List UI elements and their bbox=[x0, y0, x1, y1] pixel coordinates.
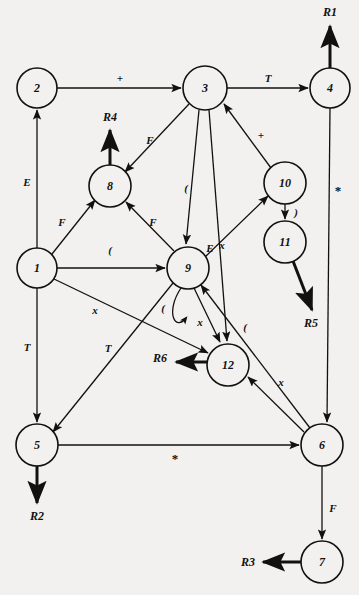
reduce-label-r3: R3 bbox=[240, 555, 255, 569]
edge-label: x bbox=[218, 239, 225, 251]
edge-label: + bbox=[117, 72, 123, 84]
reduce-label-r2: R2 bbox=[29, 509, 44, 523]
edge-label: ( bbox=[184, 182, 189, 195]
edge-4-6 bbox=[327, 108, 330, 422]
edge-label: T bbox=[265, 72, 273, 84]
edge-11-R5 bbox=[293, 261, 312, 310]
edge-label: F bbox=[328, 502, 337, 514]
node-label: 6 bbox=[319, 438, 325, 452]
edge-1-12 bbox=[54, 279, 208, 353]
edge-3-8 bbox=[125, 104, 189, 172]
node-label: 7 bbox=[319, 555, 326, 569]
graph-node-8[interactable]: 8 bbox=[89, 165, 131, 207]
edge-label: * bbox=[335, 183, 342, 198]
edge-label: E bbox=[205, 242, 213, 254]
graph-node-4[interactable]: 4 bbox=[310, 68, 350, 108]
node-label: 4 bbox=[326, 81, 333, 95]
node-label: 9 bbox=[185, 261, 191, 275]
graph-node-2[interactable]: 2 bbox=[17, 68, 57, 108]
edge-9-9-self bbox=[173, 288, 186, 323]
edge-label: x bbox=[196, 316, 203, 328]
node-label: 5 bbox=[34, 438, 40, 452]
edge-label: T bbox=[24, 341, 32, 353]
reduce-label-r4: R4 bbox=[102, 110, 117, 124]
node-label: 11 bbox=[279, 235, 290, 249]
graph-node-11[interactable]: 11 bbox=[264, 221, 306, 263]
edge-3-9 bbox=[186, 110, 199, 244]
graph-node-12[interactable]: 12 bbox=[207, 344, 249, 386]
graph-node-7[interactable]: 7 bbox=[301, 541, 343, 583]
edge-9-12 bbox=[194, 288, 220, 342]
edge-label: ( bbox=[108, 244, 113, 257]
edge-label: F bbox=[57, 216, 66, 228]
node-label: 2 bbox=[33, 81, 40, 95]
node-label: 3 bbox=[201, 81, 208, 95]
edge-label: E bbox=[22, 176, 30, 188]
node-label: 1 bbox=[34, 261, 40, 275]
edge-label: x bbox=[277, 376, 284, 388]
node-label: 12 bbox=[222, 358, 234, 372]
reduce-label-r1: R1 bbox=[322, 5, 337, 19]
reduce-label-r5: R5 bbox=[303, 316, 318, 330]
node-label: 10 bbox=[279, 176, 291, 190]
edge-label: ) bbox=[293, 206, 298, 219]
edge-label: F bbox=[145, 134, 154, 146]
graph-node-6[interactable]: 6 bbox=[301, 424, 343, 466]
diagram-canvas: + T E F ( x T F ( E F x ( T + ) * * x ( … bbox=[0, 0, 359, 595]
graph-node-1[interactable]: 1 bbox=[17, 248, 57, 288]
graph-node-5[interactable]: 5 bbox=[16, 424, 58, 466]
edge-label: ( bbox=[243, 321, 248, 334]
node-label: 8 bbox=[107, 179, 113, 193]
edge-6-12 bbox=[248, 377, 304, 432]
edge-label: ( bbox=[161, 302, 166, 315]
edge-label: F bbox=[148, 216, 157, 228]
graph-node-9[interactable]: 9 bbox=[167, 247, 209, 289]
graph-node-3[interactable]: 3 bbox=[183, 66, 227, 110]
edge-9-10 bbox=[205, 196, 268, 257]
graph-svg: + T E F ( x T F ( E F x ( T + ) * * x ( … bbox=[0, 0, 359, 595]
edge-label: T bbox=[105, 342, 113, 354]
edge-label: * bbox=[172, 451, 179, 466]
edge-label: + bbox=[258, 129, 264, 141]
reduce-label-r6: R6 bbox=[152, 351, 167, 365]
edge-label: x bbox=[91, 304, 98, 316]
graph-node-10[interactable]: 10 bbox=[264, 162, 306, 204]
